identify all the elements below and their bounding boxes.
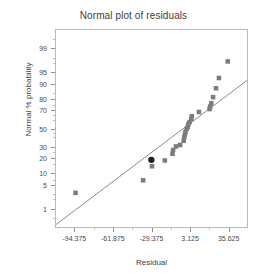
data-layer xyxy=(56,30,247,227)
x-axis-minor-tick xyxy=(94,228,95,230)
x-axis-tick-label: 3.125 xyxy=(181,235,199,242)
x-axis-tick xyxy=(190,228,191,232)
y-axis-tick-label: 90 xyxy=(39,81,47,88)
y-axis-labels: 15102030507080909599 xyxy=(0,29,55,228)
residual-point xyxy=(163,158,168,163)
plot-area xyxy=(55,29,248,228)
highlighted-point xyxy=(148,157,154,163)
x-axis-tick-label: -61.875 xyxy=(101,235,125,242)
x-axis-tick-label: -94.375 xyxy=(62,235,86,242)
residual-point xyxy=(209,101,214,106)
y-axis-tick-label: 70 xyxy=(39,107,47,114)
residual-point xyxy=(211,95,216,100)
residual-point xyxy=(178,143,183,148)
y-axis-tick-label: 20 xyxy=(39,154,47,161)
y-axis-tick-label: 1 xyxy=(43,205,47,212)
x-axis-tick xyxy=(229,228,230,232)
x-axis-labels: -94.375-61.875-29.3753.12535.625 xyxy=(55,228,248,252)
residual-point xyxy=(190,114,195,119)
x-axis-minor-tick xyxy=(171,228,172,230)
y-axis-tick-label: 5 xyxy=(43,182,47,189)
normal-probability-plot: Normal plot of residuals Normal % probab… xyxy=(0,0,267,280)
y-axis-tick-label: 95 xyxy=(39,68,47,75)
y-axis-tick-label: 80 xyxy=(39,96,47,103)
x-axis-minor-tick xyxy=(132,228,133,230)
x-axis-tick xyxy=(152,228,153,232)
y-axis-tick-label: 99 xyxy=(39,45,47,52)
residual-point xyxy=(225,59,230,64)
residual-point xyxy=(214,86,219,91)
x-axis-minor-tick xyxy=(209,228,210,230)
residual-point xyxy=(174,144,179,149)
y-axis-tick-label: 50 xyxy=(39,125,47,132)
normal-reference-line xyxy=(56,80,247,224)
residual-point xyxy=(150,164,155,169)
highlighted-residual-point xyxy=(148,157,154,163)
residual-points xyxy=(73,59,230,195)
y-axis-tick-label: 30 xyxy=(39,143,47,150)
x-axis-title: Residual xyxy=(55,258,248,267)
residual-point xyxy=(141,178,146,183)
chart-title: Normal plot of residuals xyxy=(0,10,267,21)
x-axis-tick-label: 35.625 xyxy=(218,235,239,242)
x-axis-tick xyxy=(113,228,114,232)
x-axis-tick xyxy=(74,228,75,232)
y-axis-tick-label: 10 xyxy=(39,169,47,176)
residual-point xyxy=(197,110,202,115)
residual-point xyxy=(73,191,78,196)
reference-line-group xyxy=(56,80,247,224)
x-axis-tick-label: -29.375 xyxy=(140,235,164,242)
residual-point xyxy=(217,76,222,81)
